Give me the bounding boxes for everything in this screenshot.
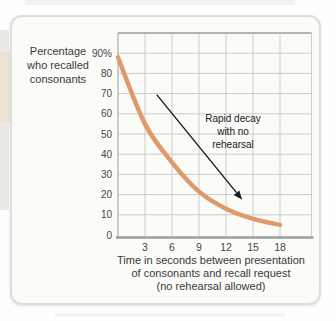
x-tick-label: 12 [220,241,232,253]
x-tick-label: 3 [142,241,148,253]
x-axis-label-line: (no rehearsal allowed) [105,280,317,293]
y-axis-label-line: who recalled [14,58,102,72]
annotation-rapid-decay: Rapid decay with no rehearsal [194,112,272,151]
x-axis-label-line: Time in seconds between presentation [105,254,317,267]
annotation-line: Rapid decay [194,112,272,125]
x-tick-label: 15 [247,241,259,253]
y-tick-label: 50 [101,129,113,140]
y-tick-label: 80 [101,68,113,79]
annotation-line: rehearsal [194,138,272,151]
y-tick-label: 0 [106,230,112,241]
y-tick-label: 60 [101,108,113,119]
y-tick-label: 30 [101,169,113,180]
y-tick-label: 10 [101,209,113,220]
y-tick-label: 20 [101,189,113,200]
x-tick-label: 18 [274,241,286,253]
x-axis-label: Time in seconds between presentation of … [105,254,317,293]
annotation-line: with no [194,125,272,138]
y-tick-label: 40 [101,149,113,160]
y-axis-label-line: consonants [14,72,102,86]
x-axis-label-line: of consonants and recall request [105,267,317,280]
x-tick-label: 9 [196,241,202,253]
y-axis-label: Percentage who recalled consonants [14,44,102,86]
y-tick-label: 70 [101,88,113,99]
y-axis-label-line: Percentage [14,44,102,58]
x-tick-label: 6 [169,241,175,253]
